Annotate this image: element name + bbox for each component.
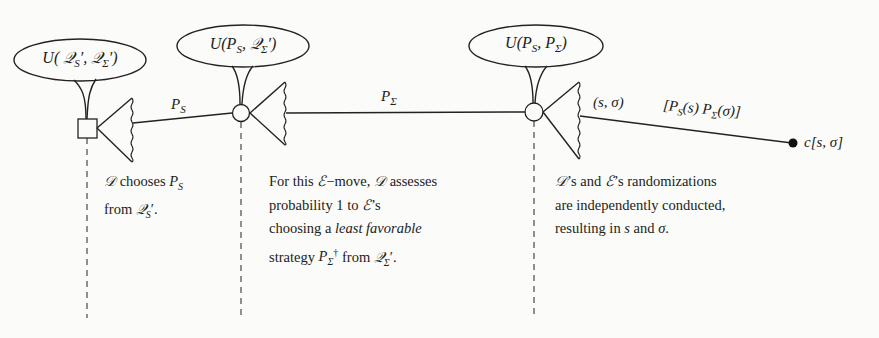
terminal-node-dot	[789, 139, 798, 148]
chance-node-circle-2	[233, 105, 250, 122]
utility-label-1: U( 𝒬S′, 𝒬Σ′)	[16, 48, 144, 69]
edge-label-ps: PS	[171, 96, 186, 115]
decision-tree-diagram: U( 𝒬S′, 𝒬Σ′) U(PS, 𝒬Σ′) U(PS, PΣ) PS PΣ …	[0, 0, 879, 338]
chance-node-circle-3	[525, 103, 543, 121]
fan-triangle-3	[543, 82, 580, 159]
caption-decision: 𝒟 chooses PS from 𝒬S′.	[104, 170, 183, 227]
edge-outcome	[580, 116, 792, 143]
decision-node-square	[78, 119, 97, 138]
edge-label-psigma: PΣ	[381, 88, 397, 107]
utility-label-3: U(PS, PΣ)	[470, 34, 602, 54]
caption-least-favorable: For this ℰ−move, 𝒟 assesses probability …	[269, 170, 437, 274]
fan-triangle-2	[250, 82, 286, 145]
edge-psigma	[286, 112, 525, 113]
utility-label-2: U(PS, 𝒬Σ′)	[178, 34, 308, 55]
terminal-label: c[s, σ]	[804, 134, 843, 151]
caption-randomizations: 𝒟’s and ℰ’s randomizations are independe…	[555, 170, 725, 241]
edge-label-s-sigma: (s, σ)	[593, 94, 624, 111]
fan-triangle-1	[97, 98, 133, 162]
